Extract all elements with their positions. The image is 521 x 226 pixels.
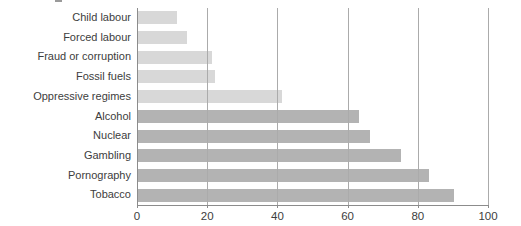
category-label: Nuclear (0, 126, 131, 146)
gridline (488, 8, 489, 205)
x-tick-label: 60 (341, 210, 354, 222)
bar (138, 169, 429, 182)
category-label: Alcohol (0, 107, 131, 127)
category-label: Gambling (0, 146, 131, 166)
bar (138, 130, 370, 143)
category-label: Oppressive regimes (0, 87, 131, 107)
gridline (277, 8, 278, 205)
category-label: Fossil fuels (0, 67, 131, 87)
bar (138, 90, 282, 103)
x-tick-label: 40 (271, 210, 284, 222)
category-label: Forced labour (0, 28, 131, 48)
x-tick-label: 80 (411, 210, 424, 222)
bar (138, 110, 359, 123)
x-axis-line (137, 205, 489, 206)
category-label: Pornography (0, 166, 131, 186)
gridline (418, 8, 419, 205)
bar (138, 189, 454, 202)
category-label: Child labour (0, 8, 131, 28)
bar (138, 31, 187, 44)
bar (138, 149, 401, 162)
y-axis-line (137, 8, 138, 208)
x-tick-label: 100 (478, 210, 497, 222)
bar-chart: Child labourForced labourFraud or corrup… (0, 0, 521, 226)
category-label: Tobacco (0, 185, 131, 205)
gridline (207, 8, 208, 205)
gridline (348, 8, 349, 205)
bar (138, 11, 177, 24)
x-tick-label: 20 (201, 210, 214, 222)
x-tick-label: 0 (134, 210, 140, 222)
cropped-text-remnant (55, 0, 62, 2)
bar (138, 70, 215, 83)
category-label: Fraud or corruption (0, 47, 131, 67)
bar (138, 51, 212, 64)
